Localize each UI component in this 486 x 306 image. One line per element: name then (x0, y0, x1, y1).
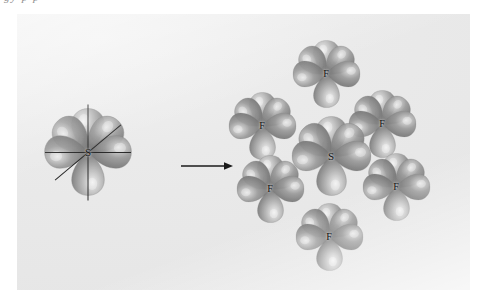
sulfur-center-lobe (316, 156, 347, 196)
figure-panel: S (17, 14, 470, 290)
caption-strip: gy p p (0, 0, 486, 12)
atom-label-sulfur: S (328, 151, 334, 162)
caption-text: gy p p (4, 0, 40, 3)
fluorine-lobe (383, 187, 410, 221)
atom-label-fluorine: F (259, 121, 265, 131)
atom-label-fluorine: F (267, 184, 273, 194)
fluorine-lobe (257, 189, 284, 223)
reaction-arrow-icon (181, 157, 233, 167)
atom-label-fluorine: F (379, 119, 385, 129)
hybrid-center-label-s: S (85, 147, 91, 158)
atom-label-fluorine: F (393, 182, 399, 192)
fluorine-lobe (316, 237, 343, 271)
fluorine-lobe (313, 74, 340, 108)
atom-label-fluorine: F (323, 69, 329, 79)
atom-label-fluorine: F (326, 232, 332, 242)
